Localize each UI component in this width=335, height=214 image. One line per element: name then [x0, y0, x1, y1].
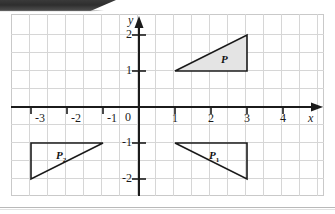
- figure-canvas: -3 -2 -1 0 1 2 3 4 x 2 1 -1 -2 y P P1 P2: [0, 0, 335, 214]
- plot-svg: [11, 14, 324, 196]
- shape-label-p1: P1: [209, 150, 219, 164]
- x-tick-label-neg2: -2: [71, 112, 81, 124]
- shape-label-p2: P2: [56, 150, 66, 164]
- bottom-divider: [0, 207, 335, 208]
- x-tick-label-2: 2: [208, 112, 214, 124]
- x-tick-label-4: 4: [280, 112, 286, 124]
- x-tick-label-neg1: -1: [107, 112, 117, 124]
- shape-label-p-text: P: [221, 53, 228, 65]
- x-tick-label-neg3: -3: [35, 112, 45, 124]
- y-axis-label: y: [128, 14, 133, 26]
- y-tick-label-neg1: -1: [122, 136, 132, 148]
- x-tick-label-3: 3: [244, 112, 250, 124]
- y-tick-label-1: 1: [126, 64, 132, 76]
- coordinate-plot: -3 -2 -1 0 1 2 3 4 x 2 1 -1 -2 y P P1 P2: [11, 14, 324, 196]
- shape-label-p1-text: P: [209, 149, 216, 161]
- bottom-divider-shadow: [0, 209, 335, 210]
- shape-label-p1-sub: 1: [216, 156, 220, 164]
- corner-banner-shadow: [0, 10, 104, 12]
- x-tick-label-zero: 0: [125, 111, 131, 123]
- y-tick-label-2: 2: [126, 28, 132, 40]
- y-tick-label-neg2: -2: [122, 172, 132, 184]
- shape-label-p2-text: P: [56, 149, 63, 161]
- plot-border: [12, 15, 324, 196]
- x-tick-label-1: 1: [172, 112, 178, 124]
- corner-banner-decoration: [0, 0, 116, 11]
- x-axis-label: x: [308, 112, 313, 124]
- shape-label-p2-sub: 2: [63, 156, 67, 164]
- shape-label-p: P: [221, 54, 228, 65]
